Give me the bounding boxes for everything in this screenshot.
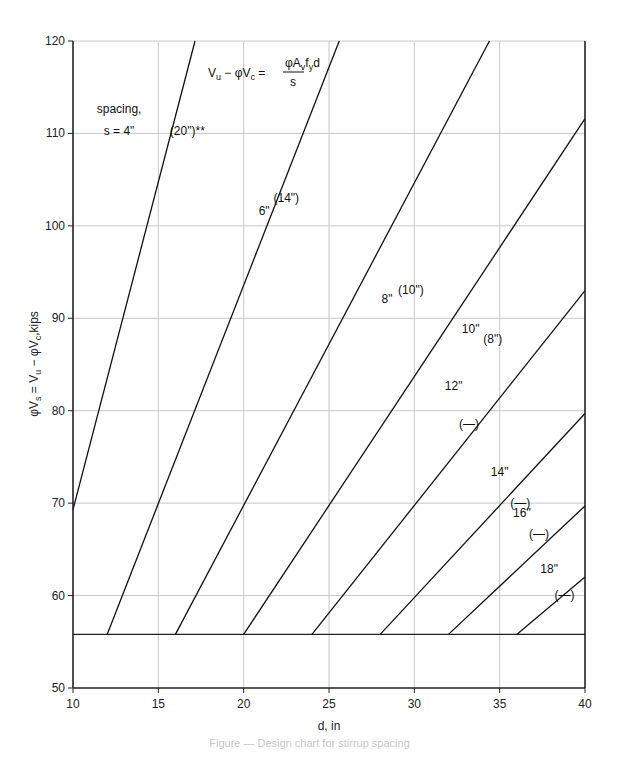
y-tick-label: 120 <box>45 34 65 48</box>
line-label: 12" <box>445 379 463 393</box>
x-axis-title: d, in <box>318 719 341 733</box>
line-label: (14") <box>274 191 300 205</box>
line-label: spacing, <box>97 102 142 116</box>
x-tick-label: 35 <box>493 697 507 711</box>
x-tick-label: 40 <box>578 697 592 711</box>
line-label: s = 4" <box>104 124 135 138</box>
line-label: (10") <box>398 283 424 297</box>
line-annotations: spacing,s = 4"(20")**6"(14")8"(10")10"(8… <box>97 102 575 602</box>
y-tick-label: 90 <box>52 311 66 325</box>
line-label: 16" <box>513 506 531 520</box>
formula-numerator: φAvfyd <box>285 56 320 72</box>
stirrup-spacing-chart: 101520253035405060708090100110120 spacin… <box>0 0 619 758</box>
line-label: 18" <box>540 562 558 576</box>
y-tick-label: 60 <box>52 589 66 603</box>
line-label: (—) <box>529 527 549 541</box>
spacing-line <box>312 291 585 635</box>
y-tick-label: 110 <box>46 126 65 140</box>
x-tick-label: 20 <box>237 697 251 711</box>
line-label: 14" <box>491 465 509 479</box>
y-tick-label: 70 <box>52 496 66 510</box>
y-tick-label: 80 <box>52 404 66 418</box>
line-label: 10" <box>462 322 480 336</box>
x-tick-label: 15 <box>152 697 166 711</box>
spacing-line <box>448 506 585 634</box>
line-label: (20")** <box>170 124 205 138</box>
line-label: 6" <box>259 204 270 218</box>
x-tick-label: 10 <box>66 697 80 711</box>
x-tick-label: 25 <box>322 697 336 711</box>
line-label: 8" <box>382 292 393 306</box>
grid-lines <box>73 41 585 688</box>
formula-lhs: Vu − φVc = <box>208 66 265 82</box>
line-label: (8") <box>483 332 502 346</box>
x-tick-label: 30 <box>408 697 422 711</box>
y-axis-title: φVs = Vu − φVc,kips <box>27 311 43 417</box>
line-label: (—) <box>555 588 575 602</box>
y-tick-label: 50 <box>52 681 66 695</box>
figure-caption: Figure — Design chart for stirrup spacin… <box>0 737 619 749</box>
line-label: (—) <box>459 417 479 431</box>
formula-annotation: Vu − φVc = φAvfyd s <box>208 56 320 89</box>
y-tick-label: 100 <box>45 219 65 233</box>
spacing-line <box>517 577 585 634</box>
formula-denominator: s <box>290 75 296 89</box>
